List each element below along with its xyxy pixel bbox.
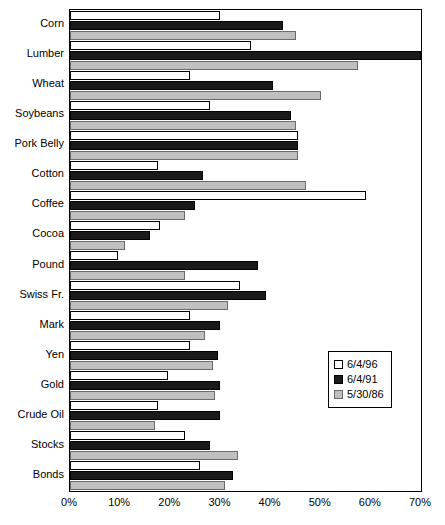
bar (70, 481, 225, 490)
x-axis-tick-label: 70% (409, 496, 431, 508)
x-axis-tick-label: 20% (158, 496, 180, 508)
legend-swatch-icon (334, 390, 343, 399)
bar (70, 291, 266, 300)
bar (70, 111, 291, 120)
legend-label: 6/4/91 (347, 374, 378, 385)
bar (70, 331, 205, 340)
y-axis-label: Wheat (0, 78, 64, 89)
y-axis-label: Bonds (0, 469, 64, 480)
bar (70, 61, 358, 70)
bar (70, 91, 321, 100)
bar-group (70, 41, 421, 70)
bar-group (70, 461, 421, 490)
bar (70, 131, 298, 140)
bar-group (70, 431, 421, 460)
bar (70, 221, 160, 230)
y-axis-label: Corn (0, 18, 64, 29)
bar-group (70, 221, 421, 250)
y-axis-label: Cotton (0, 168, 64, 179)
bar (70, 391, 215, 400)
bar (70, 471, 233, 480)
bar-group (70, 191, 421, 220)
bar (70, 321, 220, 330)
x-axis-tick-label: 50% (309, 496, 331, 508)
legend-item: 5/30/86 (334, 387, 384, 402)
legend-item: 6/4/96 (334, 357, 384, 372)
bar (70, 11, 220, 20)
bar (70, 381, 220, 390)
bar-group (70, 131, 421, 160)
y-axis-label: Coffee (0, 198, 64, 209)
bar (70, 101, 210, 110)
legend-item: 6/4/91 (334, 372, 384, 387)
legend-label: 6/4/96 (347, 359, 378, 370)
bar (70, 421, 155, 430)
bar (70, 171, 203, 180)
legend-label: 5/30/86 (347, 389, 384, 400)
bar (70, 211, 185, 220)
bar-group (70, 161, 421, 190)
bar (70, 191, 366, 200)
bar (70, 81, 273, 90)
bar (70, 441, 210, 450)
x-axis-tick-label: 60% (359, 496, 381, 508)
bar (70, 231, 150, 240)
y-axis-label: Yen (0, 349, 64, 360)
legend-swatch-icon (334, 360, 343, 369)
bar (70, 341, 190, 350)
bar (70, 361, 213, 370)
bar (70, 351, 218, 360)
bar-group (70, 101, 421, 130)
bar (70, 401, 158, 410)
y-axis-label: Pork Belly (0, 138, 64, 149)
bar-group (70, 11, 421, 40)
x-axis-tick-label: 10% (108, 496, 130, 508)
bar (70, 141, 298, 150)
y-axis-label: Lumber (0, 48, 64, 59)
bar (70, 461, 200, 470)
bar (70, 251, 118, 260)
y-axis-label: Mark (0, 319, 64, 330)
bar (70, 431, 185, 440)
bar (70, 301, 228, 310)
bar (70, 281, 240, 290)
x-axis: 0%10%20%30%40%50%60%70% (69, 492, 420, 518)
bar (70, 311, 190, 320)
bar (70, 261, 258, 270)
bar (70, 71, 190, 80)
bar (70, 31, 296, 40)
legend-swatch-icon (334, 375, 343, 384)
bar (70, 41, 251, 50)
bar-group (70, 251, 421, 280)
bar (70, 161, 158, 170)
y-axis-category-labels: CornLumberWheatSoybeansPork BellyCottonC… (0, 9, 64, 490)
bar (70, 201, 195, 210)
x-axis-tick-label: 30% (208, 496, 230, 508)
bar (70, 271, 185, 280)
bar (70, 121, 296, 130)
y-axis-label: Pound (0, 259, 64, 270)
y-axis-label: Swiss Fr. (0, 289, 64, 300)
bar-chart: CornLumberWheatSoybeansPork BellyCottonC… (0, 0, 445, 525)
bar-group (70, 71, 421, 100)
plot-area (69, 9, 422, 492)
y-axis-label: Gold (0, 379, 64, 390)
bar-group (70, 281, 421, 310)
chart-legend: 6/4/966/4/915/30/86 (328, 351, 392, 408)
bar (70, 371, 168, 380)
y-axis-label: Stocks (0, 439, 64, 450)
bar (70, 451, 238, 460)
y-axis-label: Cocoa (0, 228, 64, 239)
y-axis-label: Soybeans (0, 108, 64, 119)
y-axis-label: Crude Oil (0, 409, 64, 420)
bar (70, 51, 421, 60)
bar-group (70, 311, 421, 340)
x-axis-tick-label: 40% (259, 496, 281, 508)
bar (70, 151, 298, 160)
bar (70, 181, 306, 190)
x-axis-tick-label: 0% (61, 496, 77, 508)
bar (70, 21, 283, 30)
bar (70, 241, 125, 250)
bar (70, 411, 220, 420)
